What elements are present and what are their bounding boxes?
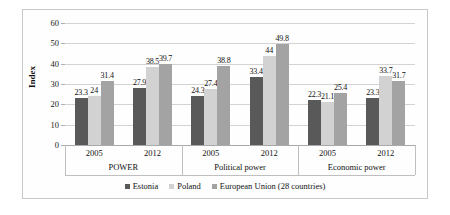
bar-value-label: 27.4 <box>204 79 217 88</box>
category-group-label: Economic power <box>328 162 386 172</box>
legend-item-poland[interactable]: Poland <box>169 181 201 191</box>
bar-value-label: 38.8 <box>217 56 230 65</box>
bar-poland-2005-2 <box>204 89 217 145</box>
bar-poland-2012-1 <box>146 67 159 145</box>
category-axis-bottom-line <box>65 175 415 176</box>
category-year-label: 2005 <box>202 148 219 158</box>
bar-value-label: 33.7 <box>379 66 392 75</box>
y-axis-tick-label: 60 <box>33 18 59 28</box>
category-year-label: 2012 <box>261 148 278 158</box>
legend-swatch-icon <box>125 184 130 189</box>
bar-european-union-28-countries-2005-4 <box>334 93 347 145</box>
bar-value-label: 31.7 <box>392 71 405 80</box>
category-year-label: 2012 <box>377 148 394 158</box>
bar-european-union-28-countries-2005-0 <box>101 81 114 145</box>
bar-value-label: 44 <box>265 46 273 55</box>
y-axis-tick-label: 50 <box>33 38 59 48</box>
legend-label: Estonia <box>133 181 159 191</box>
bar-european-union-28-countries-2012-5 <box>392 81 405 145</box>
bar-value-label: 33.4 <box>250 67 263 76</box>
category-year-label: 2005 <box>86 148 103 158</box>
chart-legend: EstoniaPolandEuropean Union (28 countrie… <box>23 181 427 191</box>
y-axis-tick-label: 0 <box>33 140 59 150</box>
bar-value-label: 25.4 <box>334 83 347 92</box>
bar-value-label: 22.3 <box>308 90 321 99</box>
legend-item-estonia[interactable]: Estonia <box>125 181 159 191</box>
y-axis-tick-label: 40 <box>33 59 59 69</box>
legend-label: Poland <box>177 181 201 191</box>
category-separator <box>182 145 183 175</box>
legend-swatch-icon <box>169 184 174 189</box>
legend-item-european-union-28-countries[interactable]: European Union (28 countries) <box>212 181 326 191</box>
bar-value-label: 49.8 <box>276 34 289 43</box>
bar-value-label: 23.3 <box>75 88 88 97</box>
bar-european-union-28-countries-2012-3 <box>276 44 289 145</box>
bar-estonia-2012-5 <box>366 98 379 145</box>
bar-value-label: 23.3 <box>366 88 379 97</box>
bar-value-label: 24.3 <box>191 86 204 95</box>
bar-estonia-2012-3 <box>250 77 263 145</box>
bar-poland-2005-4 <box>321 102 334 145</box>
bar-estonia-2005-0 <box>75 98 88 145</box>
bar-estonia-2012-1 <box>133 88 146 145</box>
bar-value-label: 24 <box>90 86 98 95</box>
bar-european-union-28-countries-2005-2 <box>217 66 230 145</box>
bar-european-union-28-countries-2012-1 <box>159 64 172 145</box>
bar-value-label: 31.4 <box>101 71 114 80</box>
plot-area: 23.32431.427.938.539.724.327.438.833.444… <box>65 23 415 145</box>
legend-label: European Union (28 countries) <box>220 181 326 191</box>
category-group-label: Political power <box>214 162 266 172</box>
bar-value-label: 38.5 <box>146 57 159 66</box>
category-group-label: POWER <box>108 162 138 172</box>
bar-value-label: 21.1 <box>321 92 334 101</box>
legend-swatch-icon <box>212 184 217 189</box>
category-year-label: 2005 <box>319 148 336 158</box>
category-axis-right-edge <box>415 145 416 175</box>
bar-value-label: 27.9 <box>133 78 146 87</box>
bar-value-label: 39.7 <box>159 54 172 63</box>
bar-poland-2005-0 <box>88 96 101 145</box>
y-axis-tick-label: 30 <box>33 79 59 89</box>
y-axis-tick-label: 20 <box>33 99 59 109</box>
bar-poland-2012-5 <box>379 76 392 145</box>
bar-poland-2012-3 <box>263 56 276 145</box>
bar-estonia-2005-2 <box>191 96 204 145</box>
y-axis-tick-label: 10 <box>33 120 59 130</box>
category-year-label: 2012 <box>144 148 161 158</box>
category-separator <box>298 145 299 175</box>
category-axis-left-edge <box>65 145 66 175</box>
bar-estonia-2005-4 <box>308 100 321 145</box>
chart-container: Index 0102030405060 23.32431.427.938.539… <box>22 9 428 199</box>
x-axis-line <box>65 145 415 146</box>
